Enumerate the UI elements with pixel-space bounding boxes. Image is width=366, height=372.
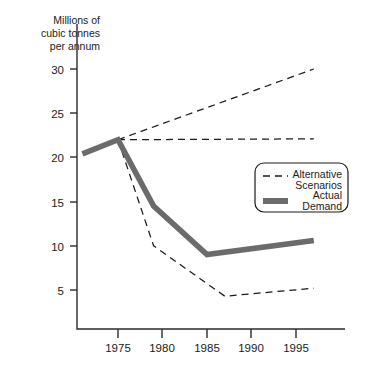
y-axis-label-line-3: per annum [50,40,100,52]
y-tick-label-30: 30 [51,64,64,76]
x-tick-label-1980: 1980 [149,342,175,354]
x-axis-ticks [118,329,296,338]
y-tick-label-5: 5 [58,285,64,297]
x-tick-label-1990: 1990 [238,342,264,354]
x-tick-label-1985: 1985 [194,342,220,354]
y-axis-ticks [70,69,77,290]
chart-container: Millions of cubic tonnes per annum 30 25… [0,0,366,372]
x-tick-label-1975: 1975 [105,342,131,354]
series-alternative-flat [118,139,314,140]
y-tick-label-10: 10 [51,241,64,253]
line-chart: Millions of cubic tonnes per annum 30 25… [0,0,366,372]
y-tick-label-15: 15 [51,197,64,209]
chart-legend: Alternative Scenarios Actual Demand [255,163,348,212]
series-alternative-high [118,69,314,140]
legend-label-actual-line-2: Demand [302,200,342,212]
y-tick-label-20: 20 [51,152,64,164]
y-axis-label-line-2: cubic tonnes [41,27,100,39]
x-tick-label-1995: 1995 [283,342,309,354]
y-tick-label-25: 25 [51,108,64,120]
legend-marker-actual [263,198,288,204]
